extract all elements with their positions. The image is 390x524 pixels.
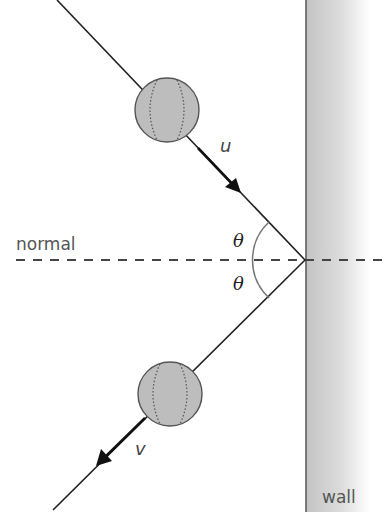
collision-diagram: wall normal u v θ θ	[0, 0, 390, 524]
ball-icon	[135, 78, 199, 142]
angle-incident-label: θ	[233, 230, 244, 251]
angle-reflected-label: θ	[233, 273, 244, 294]
wall-surface	[306, 0, 370, 512]
wall-label: wall	[322, 487, 356, 507]
wall: wall	[306, 0, 370, 512]
incoming-velocity-label: u	[220, 135, 231, 156]
ball-outgoing	[138, 362, 202, 426]
ball-incoming	[135, 78, 199, 142]
ball-icon	[138, 362, 202, 426]
normal-label: normal	[16, 234, 76, 254]
outgoing-velocity-label: v	[135, 438, 146, 459]
